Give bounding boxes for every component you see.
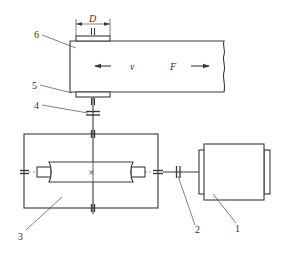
label-2: 2	[195, 224, 200, 235]
label-4: 4	[34, 100, 39, 111]
velocity-arrow: v	[94, 61, 135, 72]
label-3: 3	[18, 231, 23, 242]
velocity-symbol: v	[130, 61, 135, 72]
part-labels: 6 5 4 3 2 1	[18, 29, 240, 242]
label-5: 5	[32, 80, 37, 91]
conveyor-drive-diagram: D v F	[0, 0, 288, 255]
electric-motor	[199, 144, 270, 200]
gear-mark: ×	[89, 167, 95, 178]
label-1: 1	[235, 223, 240, 234]
gear-shaft: ×	[37, 162, 145, 182]
drum	[76, 28, 110, 97]
diameter-dimension: D	[76, 13, 110, 36]
force-symbol: F	[169, 61, 177, 72]
force-arrow: F	[169, 61, 210, 72]
label-6: 6	[34, 29, 39, 40]
diameter-symbol: D	[88, 13, 97, 24]
